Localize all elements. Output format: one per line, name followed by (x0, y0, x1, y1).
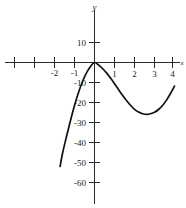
y-tick-label--40: -40 (74, 138, 86, 148)
y-tick-label--60: -60 (74, 178, 86, 188)
x-axis-label: x (179, 59, 184, 67)
x-tick-label-3: 3 (152, 69, 157, 79)
x-tick-label-1: 1 (112, 69, 117, 79)
y-tick-label-10: 10 (77, 38, 87, 48)
plot-canvas: -2 -1 1 2 3 4 10 -10 -20 -30 -40 -50 -60… (0, 0, 186, 208)
graph-figure: -2 -1 1 2 3 4 10 -10 -20 -30 -40 -50 -60… (0, 0, 186, 208)
y-axis-label: y (92, 2, 97, 12)
y-tick-label--50: -50 (74, 158, 86, 168)
x-tick-label--1: -1 (71, 68, 79, 78)
x-tick-label-2: 2 (132, 69, 137, 79)
x-tick-label--2: -2 (51, 68, 59, 78)
x-tick-label-4: 4 (170, 69, 175, 79)
y-tick-label--30: -30 (74, 118, 86, 128)
